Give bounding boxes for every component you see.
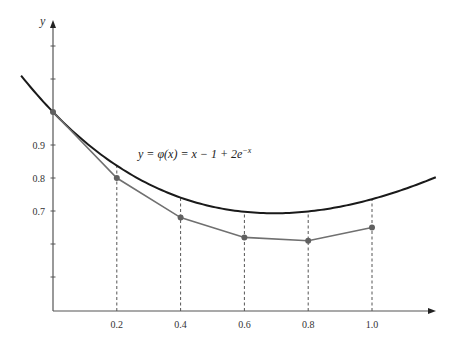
x-tick-label: 0.4 (174, 319, 187, 330)
tick-labels: 0.20.40.60.81.00.70.80.9 (33, 140, 379, 331)
x-axis-arrow-icon (428, 308, 436, 314)
y-tick-label: 0.9 (33, 140, 46, 151)
x-tick-label: 1.0 (366, 319, 379, 330)
data-point-marker (305, 238, 311, 244)
x-tick-label: 0.8 (302, 319, 315, 330)
x-tick-label: 0.2 (111, 319, 124, 330)
equation-exponent: −x (242, 146, 251, 155)
data-point-marker (50, 109, 56, 115)
approximation-polyline (53, 112, 372, 241)
y-tick-label: 0.8 (33, 173, 46, 184)
y-tick-label: 0.7 (33, 206, 46, 217)
y-axis-arrow-icon (50, 20, 56, 28)
data-point-marker (114, 175, 120, 181)
equation-annotation: y = φ(x) = x − 1 + 2e−x (138, 146, 251, 162)
equation-text: y = φ(x) = x − 1 + 2e (138, 147, 242, 161)
data-point-marker (369, 225, 375, 231)
chart-canvas: 0.20.40.60.81.00.70.80.9 (0, 0, 456, 339)
approximation-line (50, 109, 375, 244)
x-tick-label: 0.6 (238, 319, 251, 330)
data-point-marker (178, 215, 184, 221)
y-axis-label: y (40, 14, 45, 29)
data-point-marker (241, 234, 247, 240)
axes (50, 20, 436, 314)
